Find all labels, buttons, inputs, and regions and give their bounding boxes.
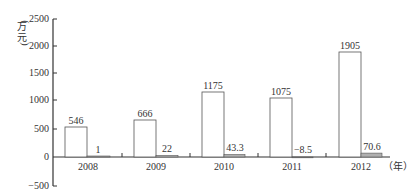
y-tick-label: 500 (34, 123, 49, 134)
x-axis-label: （年） (383, 160, 413, 172)
bar-gray (292, 157, 313, 158)
data-label: 1075 (271, 86, 291, 97)
bar-white (134, 120, 156, 157)
bar-white (270, 98, 292, 157)
data-label: −8.5 (294, 144, 312, 155)
bar-white (65, 127, 87, 157)
bar-group-2009: 666 22 2009 (134, 108, 178, 172)
y-axis-label: ( 万 元 ) (17, 20, 31, 45)
y-tick-label: −500 (28, 180, 49, 191)
svg-text:万: 万 (17, 21, 27, 32)
data-label: 1175 (203, 80, 223, 91)
bar-chart: 2500 2000 1500 1000 500 0 −500 ( 万 元 ) 5… (0, 0, 416, 194)
bar-gray (87, 156, 110, 157)
bar-gray (224, 155, 245, 157)
data-label: 1 (96, 144, 101, 155)
bar-white (202, 92, 224, 157)
data-label: 546 (69, 115, 84, 126)
svg-text:): ) (19, 42, 31, 45)
y-tick-label: 1500 (29, 67, 49, 78)
y-tick-label: 1000 (29, 94, 49, 105)
bar-gray (156, 156, 178, 158)
data-label: 43.3 (226, 142, 244, 153)
y-tick-label: 2500 (29, 13, 49, 24)
x-tick-label: 2012 (351, 161, 371, 172)
bar-group-2011: 1075 −8.5 2011 (270, 86, 313, 172)
data-label: 70.6 (363, 141, 381, 152)
bar-group-2008: 546 1 2008 (65, 115, 110, 172)
bar-group-2012: 1905 70.6 2012 (339, 40, 382, 172)
y-tick-label: 2000 (29, 40, 49, 51)
x-tick-label: 2008 (78, 161, 98, 172)
data-label: 666 (138, 108, 153, 119)
x-tick-label: 2009 (146, 161, 166, 172)
bar-gray (361, 153, 382, 157)
data-label: 1905 (340, 40, 360, 51)
bar-white (339, 52, 361, 157)
x-tick-label: 2010 (214, 161, 234, 172)
bar-group-2010: 1175 43.3 2010 (202, 80, 245, 172)
data-label: 22 (162, 143, 172, 154)
x-tick-label: 2011 (282, 161, 302, 172)
y-tick-label: 0 (44, 151, 49, 162)
